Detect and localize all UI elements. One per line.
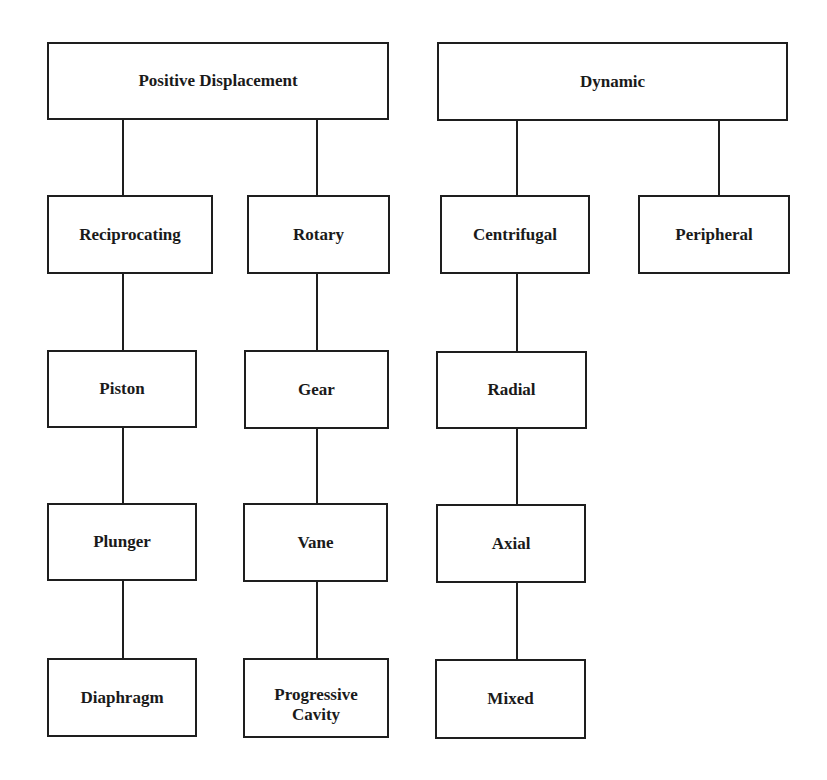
node-diaphragm: Diaphragm [47, 658, 197, 737]
node-label: Dynamic [580, 72, 645, 92]
node-progressive-cavity: Progressive Cavity [243, 658, 389, 738]
node-piston: Piston [47, 350, 197, 428]
node-label: Peripheral [675, 225, 752, 245]
node-reciprocating: Reciprocating [47, 195, 213, 274]
node-label: Rotary [293, 225, 344, 245]
node-label: Piston [99, 379, 144, 399]
connector-vane-progressive-cavity [316, 581, 318, 659]
connector-piston-plunger [122, 427, 124, 504]
node-label: Diaphragm [80, 688, 163, 708]
node-axial: Axial [436, 504, 586, 583]
node-label: Radial [487, 380, 535, 400]
node-label: Gear [298, 380, 335, 400]
connector-dynamic-peripheral [718, 120, 720, 196]
node-gear: Gear [244, 350, 389, 429]
connector-pd-reciprocating [122, 119, 124, 196]
node-positive-displacement: Positive Displacement [47, 42, 389, 120]
connector-reciprocating-piston [122, 273, 124, 351]
node-plunger: Plunger [47, 503, 197, 581]
node-mixed: Mixed [435, 659, 586, 739]
node-radial: Radial [436, 351, 587, 429]
connector-axial-mixed [516, 582, 518, 660]
node-label: Mixed [487, 689, 533, 709]
connector-centrifugal-radial [516, 273, 518, 352]
node-label: Progressive Cavity [274, 685, 357, 725]
node-label: Plunger [93, 532, 151, 552]
node-vane: Vane [243, 503, 388, 582]
node-peripheral: Peripheral [638, 195, 790, 274]
connector-plunger-diaphragm [122, 580, 124, 659]
connector-dynamic-centrifugal [516, 120, 518, 196]
connector-rotary-gear [316, 273, 318, 351]
connector-gear-vane [316, 428, 318, 504]
node-label: Axial [492, 534, 531, 554]
node-label: Centrifugal [473, 225, 557, 245]
connector-pd-rotary [316, 119, 318, 196]
node-label: Vane [297, 533, 333, 553]
node-label: Reciprocating [79, 225, 181, 245]
node-centrifugal: Centrifugal [440, 195, 590, 274]
node-dynamic: Dynamic [437, 42, 788, 121]
node-rotary: Rotary [247, 195, 390, 274]
connector-radial-axial [516, 428, 518, 505]
node-label: Positive Displacement [138, 71, 297, 91]
